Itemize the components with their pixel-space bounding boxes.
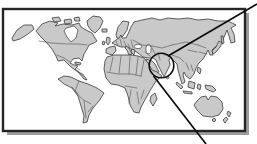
black-sea	[134, 44, 142, 48]
map-canvas	[0, 0, 257, 144]
island-tasmania	[212, 118, 215, 121]
island-cuba	[75, 62, 81, 65]
island-iceland	[102, 29, 107, 32]
island-ireland	[102, 41, 105, 45]
world-map-figure	[0, 0, 257, 144]
